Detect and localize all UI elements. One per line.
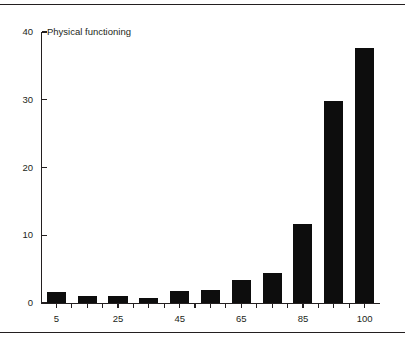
y-axis-tick bbox=[42, 235, 47, 236]
bar bbox=[324, 101, 343, 303]
x-axis-tick bbox=[302, 303, 303, 308]
x-axis-label: 25 bbox=[113, 313, 124, 324]
chart-figure: Physical functioning 525456585100 010203… bbox=[0, 0, 405, 339]
x-axis-label: 5 bbox=[54, 313, 59, 324]
x-axis-label: 100 bbox=[357, 313, 373, 324]
x-axis-label: 85 bbox=[298, 313, 309, 324]
x-axis-tick bbox=[210, 303, 211, 308]
x-axis-tick bbox=[364, 303, 365, 308]
x-axis-tick-minor bbox=[318, 303, 319, 308]
x-axis-tick bbox=[148, 303, 149, 308]
bar bbox=[78, 296, 97, 303]
bar bbox=[263, 273, 282, 303]
x-axis-tick-minor bbox=[102, 303, 103, 308]
x-axis-tick-minor bbox=[133, 303, 134, 308]
x-axis-tick bbox=[87, 303, 88, 308]
x-axis-tick bbox=[241, 303, 242, 308]
x-axis-tick-minor bbox=[225, 303, 226, 308]
y-axis-tick bbox=[42, 99, 47, 100]
x-axis-tick bbox=[179, 303, 180, 308]
x-axis-label: 65 bbox=[236, 313, 247, 324]
bar bbox=[47, 292, 66, 303]
x-axis-tick-minor bbox=[287, 303, 288, 308]
y-axis-label: 20 bbox=[0, 162, 33, 173]
x-axis-tick bbox=[56, 303, 57, 308]
bar bbox=[201, 290, 220, 303]
y-axis-label: 40 bbox=[0, 26, 33, 37]
top-divider-rule bbox=[0, 4, 405, 5]
x-axis-tick bbox=[272, 303, 273, 308]
y-axis-tick bbox=[42, 167, 47, 168]
bar bbox=[170, 291, 189, 303]
bottom-divider-rule bbox=[0, 332, 405, 333]
bar bbox=[355, 48, 374, 303]
x-axis-tick bbox=[117, 303, 118, 308]
y-axis-label: 30 bbox=[0, 94, 33, 105]
x-axis-tick-minor bbox=[349, 303, 350, 308]
y-axis-label: 10 bbox=[0, 229, 33, 240]
bar bbox=[293, 224, 312, 303]
x-axis-tick-minor bbox=[194, 303, 195, 308]
bar bbox=[139, 298, 158, 303]
x-axis-tick-minor bbox=[71, 303, 72, 308]
x-axis-tick-minor bbox=[256, 303, 257, 308]
bar bbox=[232, 280, 251, 303]
x-axis-tick-minor bbox=[164, 303, 165, 308]
x-axis-tick bbox=[333, 303, 334, 308]
x-axis-label: 45 bbox=[174, 313, 185, 324]
plot-area: 525456585100 bbox=[41, 32, 380, 303]
y-axis-label: 0 bbox=[0, 297, 33, 308]
y-axis-tick bbox=[42, 31, 47, 32]
bar bbox=[108, 296, 127, 303]
